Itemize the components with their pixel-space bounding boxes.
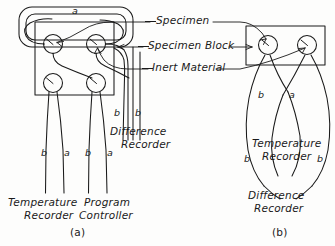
panel-a-wire-label-a2: a [107,148,113,158]
panel-b-temperature-recorder-line1: Temperature [252,138,321,149]
panel-a-difference-recorder-line2: Recorder [121,139,170,150]
panel-a-temp-recorder-leads [46,92,65,193]
panel-a-program-controller-line1: Program [84,197,130,208]
panel-a-leader-specimen [57,22,150,47]
panel-a-internal-wires [25,19,129,78]
panel-a-temperature-recorder-line1: Temperature [8,197,77,208]
callout-specimen-block: Specimen Block [148,40,234,51]
panel-b-wire-label-b1: b [258,90,264,100]
panel-a-wire-label-b3: b [114,108,120,118]
panel-a-wire-label-b2: b [85,148,91,158]
panel-b-wire-label-a: a [289,90,295,100]
panel-a-difference-recorder-line1: Difference [110,126,167,137]
callout-specimen: Specimen [156,15,209,26]
panel-b-difference-recorder-line2: Recorder [254,203,303,214]
panel-a-wire-label-b1: b [41,148,47,158]
panel-b-difference-recorder-line1: Difference [248,190,305,201]
panel-b-wire-label-b3: b [317,154,323,164]
callout-specimen-block-stub [138,46,149,47]
panel-a-wire-label-a1: a [64,148,70,158]
panel-b-caption: (b) [272,227,287,238]
panel-a-program-controller-line2: Controller [79,210,133,221]
callout-inert-material-stub [142,68,153,69]
panel-a-specimen-block [35,22,114,95]
panel-b-junction-ticks [262,40,308,46]
panel-b-wire-label-b2: b [244,154,250,164]
panel-b-temperature-recorder-line2: Recorder [262,151,311,162]
panel-a-caption: (a) [70,227,85,238]
callout-inert-material: Inert Material [152,62,225,73]
figure-canvas: Specimen Specimen Block Inert Material a… [0,0,335,246]
panel-b-wires [246,55,330,199]
callout-specimen-stub [145,21,156,22]
panel-a-program-controller-leads [89,92,108,193]
panel-a-wire-label-b4: b [135,108,141,118]
panel-a-temperature-recorder-line2: Recorder [24,210,73,221]
panel-a-loop-label-a: a [72,6,78,16]
